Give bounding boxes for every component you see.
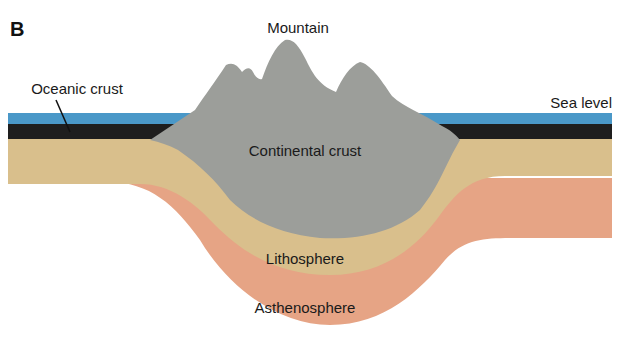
lithosphere-label: Lithosphere [266,250,344,267]
panel-label: B [10,18,24,40]
isostasy-diagram: B Mountain Oceanic crust Sea level Conti… [0,0,621,350]
mountain-label: Mountain [267,19,329,36]
asthenosphere-label: Asthenosphere [255,299,356,316]
sea-level-label: Sea level [550,94,612,111]
oceanic-crust-label: Oceanic crust [31,80,124,97]
continental-crust-label: Continental crust [249,142,362,159]
